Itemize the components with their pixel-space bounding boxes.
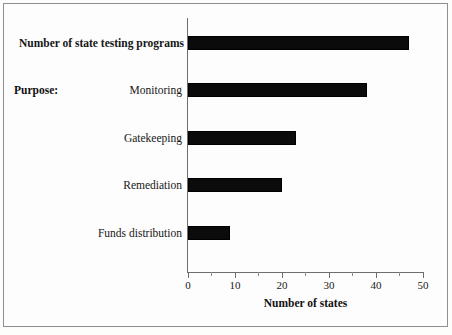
bar-remediation bbox=[188, 178, 282, 192]
x-tick-label-0: 0 bbox=[185, 279, 191, 291]
x-tick-30 bbox=[329, 272, 330, 278]
category-label-gatekeeping: Gatekeeping bbox=[6, 131, 182, 145]
x-tick-label-30: 30 bbox=[324, 279, 335, 291]
chart-figure: Number of state testing programs Purpose… bbox=[0, 0, 452, 335]
bar-funds-distribution bbox=[188, 226, 230, 240]
category-label-number-of-state-testing-programs: Number of state testing programs bbox=[8, 36, 184, 50]
bar-gatekeeping bbox=[188, 131, 296, 145]
category-label-funds-distribution: Funds distribution bbox=[6, 226, 182, 240]
category-label-remediation: Remediation bbox=[6, 178, 182, 192]
x-tick-20 bbox=[282, 272, 283, 278]
x-tick-label-20: 20 bbox=[277, 279, 288, 291]
bar-number-of-state-testing-programs bbox=[188, 36, 409, 50]
category-label-monitoring: Monitoring bbox=[6, 83, 182, 97]
x-minor-tick-25 bbox=[305, 272, 306, 276]
x-minor-tick-45 bbox=[399, 272, 400, 276]
x-tick-10 bbox=[235, 272, 236, 278]
x-minor-tick-15 bbox=[258, 272, 259, 276]
x-tick-label-50: 50 bbox=[418, 279, 429, 291]
bar-monitoring bbox=[188, 83, 367, 97]
x-tick-50 bbox=[423, 272, 424, 278]
x-minor-tick-5 bbox=[211, 272, 212, 276]
x-minor-tick-35 bbox=[352, 272, 353, 276]
x-tick-label-10: 10 bbox=[230, 279, 241, 291]
x-axis-title: Number of states bbox=[188, 297, 423, 309]
x-tick-0 bbox=[188, 272, 189, 278]
x-tick-label-40: 40 bbox=[371, 279, 382, 291]
x-tick-40 bbox=[376, 272, 377, 278]
